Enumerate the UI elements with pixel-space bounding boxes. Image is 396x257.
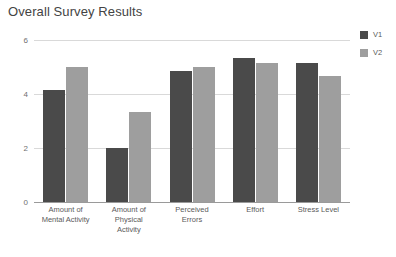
y-tick-label: 6 [24, 36, 28, 45]
chart-title: Overall Survey Results [8, 4, 142, 19]
plot-area: 0246 [34, 40, 350, 202]
x-axis-label-line: Activity [92, 225, 166, 235]
bar-v1[interactable] [233, 58, 255, 202]
bar-v1[interactable] [170, 71, 192, 202]
bar-group [170, 40, 215, 202]
legend-label: V1 [373, 30, 382, 39]
legend-item[interactable]: V2 [360, 48, 394, 57]
bar-group [106, 40, 151, 202]
y-tick-label: 2 [24, 144, 28, 153]
bar-group [233, 40, 278, 202]
legend-item[interactable]: V1 [360, 30, 394, 39]
bar-v2[interactable] [256, 63, 278, 202]
x-axis-label-line: Stress Level [281, 205, 355, 215]
bars-layer [34, 40, 350, 202]
y-tick-label: 0 [24, 198, 28, 207]
bar-group [43, 40, 88, 202]
x-axis-label: Stress Level [281, 205, 355, 215]
chart-card: Overall Survey Results 0246 Amount ofMen… [0, 0, 396, 257]
chart-legend: V1V2 [360, 30, 394, 66]
x-axis-labels: Amount ofMental ActivityAmount ofPhysica… [34, 205, 350, 255]
bar-v1[interactable] [43, 90, 65, 202]
gridline-0: 0 [34, 202, 350, 203]
bar-v2[interactable] [66, 67, 88, 202]
bar-group [296, 40, 341, 202]
y-tick-label: 4 [24, 90, 28, 99]
legend-swatch-icon [360, 31, 368, 39]
bar-v2[interactable] [319, 76, 341, 202]
bar-v2[interactable] [193, 67, 215, 202]
bar-v1[interactable] [106, 148, 128, 202]
x-axis-label-line: Errors [155, 215, 229, 225]
bar-v1[interactable] [296, 63, 318, 202]
legend-swatch-icon [360, 49, 368, 57]
bar-v2[interactable] [129, 112, 151, 202]
legend-label: V2 [373, 48, 382, 57]
